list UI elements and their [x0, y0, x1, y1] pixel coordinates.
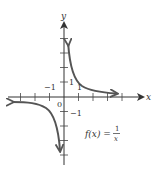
curve-positive-branch: [68, 44, 116, 94]
x-axis: [8, 93, 143, 101]
curve-negative-branch: [12, 102, 60, 150]
function-label: f(x) = 1 x: [84, 125, 120, 143]
fraction-numerator: 1: [115, 125, 119, 133]
y-axis-label: y: [60, 11, 67, 21]
tick-label-y-neg1: −1: [70, 109, 82, 118]
function-graph: y x −1 1 1 −1 0 f(x) = 1 x: [0, 0, 156, 175]
x-axis-label: x: [146, 92, 151, 102]
tick-label-x-neg1: −1: [44, 83, 56, 92]
fraction-denominator: x: [114, 135, 118, 143]
y-axis: [60, 23, 68, 165]
origin-label: 0: [57, 100, 62, 109]
tick-label-x-pos1: 1: [77, 83, 82, 92]
tick-label-y-pos1: 1: [69, 78, 74, 87]
function-name: f(x) =: [84, 129, 111, 139]
